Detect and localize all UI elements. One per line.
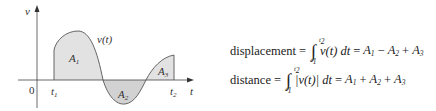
upper-limit: t2 xyxy=(294,66,300,75)
term-sub: 2 xyxy=(395,49,399,58)
operator-plus-2: + xyxy=(384,74,391,87)
integrand: v(t) dt xyxy=(320,45,350,58)
velocity-graph: v 0 t1 t2 t v(t) A1 A2 A3 xyxy=(0,0,220,111)
lower-limit: t1 xyxy=(286,86,292,95)
term-sub: 3 xyxy=(420,49,424,58)
a2-sub: 2 xyxy=(125,94,129,102)
equals-sign-2: = xyxy=(335,74,342,87)
lower-limit: t1 xyxy=(311,57,317,66)
term-a2: A2 xyxy=(370,73,381,87)
distance-formula: distance = ∫t2t1 |v(t)| dt = A1 + A2 + A… xyxy=(230,71,405,89)
term-a1: A1 xyxy=(345,73,356,87)
displacement-word: displacement xyxy=(230,45,296,58)
term-a1: A1 xyxy=(363,44,374,58)
a2-main: A xyxy=(118,88,125,100)
term-main: A xyxy=(412,43,420,57)
a3-sub: 3 xyxy=(165,71,169,79)
displacement-formula: displacement = ∫t2t1 v(t) dt = A1 − A2 +… xyxy=(230,42,424,60)
term-a3: A3 xyxy=(412,44,423,58)
equals-sign: = xyxy=(299,45,306,58)
term-main: A xyxy=(345,72,353,86)
term-main: A xyxy=(394,72,402,86)
operator-plus: + xyxy=(402,45,409,58)
integrand: |v(t)| dt xyxy=(295,74,332,87)
term-a2: A2 xyxy=(388,44,399,58)
a3-main: A xyxy=(158,65,165,77)
v-axis-arrow-icon xyxy=(35,5,40,12)
t2-label: t2 xyxy=(170,86,177,99)
t-axis-label: t xyxy=(190,86,193,97)
v-axis-label: v xyxy=(25,6,30,17)
t1-label-sub: 1 xyxy=(54,91,58,99)
t1-label: t1 xyxy=(51,86,58,99)
equals-sign: = xyxy=(274,74,281,87)
equals-sign-2: = xyxy=(353,45,360,58)
t2-label-sub: 2 xyxy=(173,91,177,99)
term-sub: 2 xyxy=(377,78,381,87)
integral-sign-icon: ∫t2t1 xyxy=(286,71,291,89)
integral-sign-icon: ∫t2t1 xyxy=(311,42,316,60)
term-a3: A3 xyxy=(394,73,405,87)
upper-limit: t2 xyxy=(319,37,325,46)
operator-minus: − xyxy=(378,45,385,58)
distance-word: distance xyxy=(230,74,271,87)
term-sub: 1 xyxy=(371,49,375,58)
origin-label: 0 xyxy=(29,85,35,96)
t-axis-arrow-icon xyxy=(187,78,194,83)
a1-sub: 1 xyxy=(76,58,80,66)
region-a1-label: A1 xyxy=(69,53,79,66)
region-a2-label: A2 xyxy=(118,89,128,102)
region-a3-label: A3 xyxy=(158,66,168,79)
term-sub: 3 xyxy=(402,78,406,87)
a1-main: A xyxy=(69,52,76,64)
operator-plus: + xyxy=(360,74,367,87)
term-main: A xyxy=(363,43,371,57)
curve-label: v(t) xyxy=(97,34,112,45)
term-sub: 1 xyxy=(353,78,357,87)
